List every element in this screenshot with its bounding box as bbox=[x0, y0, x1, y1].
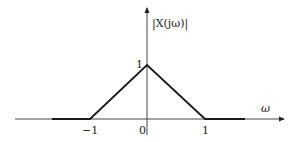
x-tick-1: 1 bbox=[202, 124, 209, 137]
x-tick-0: 0 bbox=[139, 124, 146, 137]
triangle-spectrum-plot: |X(jω)| ω 1 −1 0 1 bbox=[0, 0, 295, 142]
x-axis-label: ω bbox=[261, 102, 270, 115]
spectrum-curve bbox=[52, 65, 245, 119]
y-axis-label: |X(jω)| bbox=[152, 17, 188, 31]
peak-tick-label: 1 bbox=[136, 58, 143, 71]
x-tick-neg1: −1 bbox=[82, 124, 98, 137]
